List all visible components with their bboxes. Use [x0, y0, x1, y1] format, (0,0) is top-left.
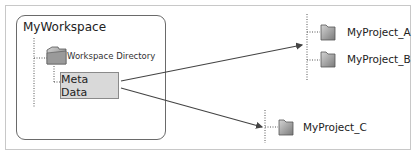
folder-icon	[321, 52, 335, 67]
workspace-directory-label: Workspace Directory	[67, 51, 155, 61]
folder-icon	[279, 120, 293, 135]
meta-data-label: Meta Data	[61, 73, 118, 99]
project-c-label: MyProject_C	[303, 121, 367, 133]
folder-icon	[321, 25, 335, 40]
project-c-tree-lines	[265, 110, 278, 143]
meta-data-box: Meta Data	[60, 72, 119, 99]
project-b-label: MyProject_B	[347, 53, 411, 65]
folder-open-icon	[47, 47, 66, 64]
project-a-label: MyProject_A	[347, 26, 411, 38]
arrow-to-project-c	[121, 88, 262, 127]
project-ab-tree-lines	[307, 14, 320, 80]
